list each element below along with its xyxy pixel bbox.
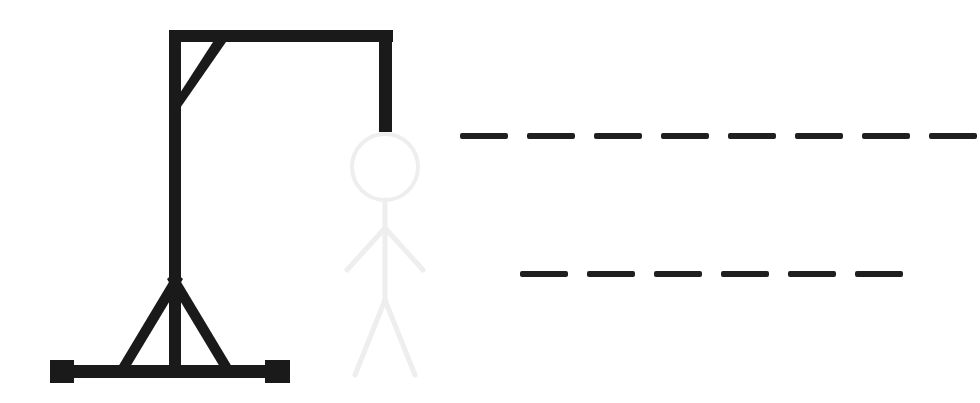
figure-right-arm-shape xyxy=(385,228,423,270)
vertical-post-shape xyxy=(169,30,181,370)
letter-blank-dash xyxy=(862,133,910,139)
letter-blank-dash xyxy=(594,133,642,139)
hangman-game-canvas: Hangman xyxy=(0,0,980,403)
word-blank-line-2 xyxy=(520,271,903,277)
letter-blank-dash xyxy=(795,133,843,139)
hangman-figure-group xyxy=(347,134,423,375)
hangman-drawing xyxy=(0,0,980,403)
left-foot-block-shape xyxy=(50,360,74,383)
word-blank-line-1 xyxy=(460,133,977,139)
letter-blank-dash xyxy=(855,271,903,277)
word-blanks-group xyxy=(460,133,977,277)
figure-left-arm-shape xyxy=(347,228,385,270)
letter-blank-dash xyxy=(460,133,508,139)
right-foot-block-shape xyxy=(265,360,290,383)
figure-left-leg-shape xyxy=(355,300,385,375)
letter-blank-dash xyxy=(929,133,977,139)
letter-blank-dash xyxy=(728,133,776,139)
top-beam-shape xyxy=(169,30,393,42)
letter-blank-dash xyxy=(520,271,568,277)
letter-blank-dash xyxy=(587,271,635,277)
rope-shape xyxy=(379,30,392,132)
letter-blank-dash xyxy=(661,133,709,139)
figure-right-leg-shape xyxy=(385,300,415,375)
letter-blank-dash xyxy=(788,271,836,277)
figure-head-shape xyxy=(352,134,418,200)
letter-blank-dash xyxy=(527,133,575,139)
gallows-group xyxy=(50,30,393,383)
letter-blank-dash xyxy=(654,271,702,277)
letter-blank-dash xyxy=(721,271,769,277)
